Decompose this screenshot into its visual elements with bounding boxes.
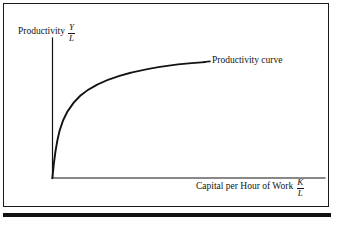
y-axis-fraction: Y L — [68, 23, 75, 43]
y-axis-fraction-denominator: L — [68, 33, 75, 44]
y-axis-fraction-numerator: Y — [68, 23, 75, 33]
x-axis-label: Capital per Hour of Work K L — [196, 177, 304, 197]
productivity-curve — [52, 62, 205, 178]
y-axis-label-text: Productivity — [18, 27, 65, 37]
y-axis-label: Productivity Y L — [18, 22, 75, 42]
curve-label: Productivity curve — [212, 56, 282, 66]
curve-label-leader-line — [204, 61, 210, 62]
x-axis-fraction: K L — [296, 178, 304, 198]
x-axis-fraction-numerator: K — [296, 178, 304, 188]
x-axis-fraction-denominator: L — [297, 188, 304, 199]
bottom-rule — [3, 213, 331, 217]
x-axis-label-text: Capital per Hour of Work — [196, 182, 293, 192]
